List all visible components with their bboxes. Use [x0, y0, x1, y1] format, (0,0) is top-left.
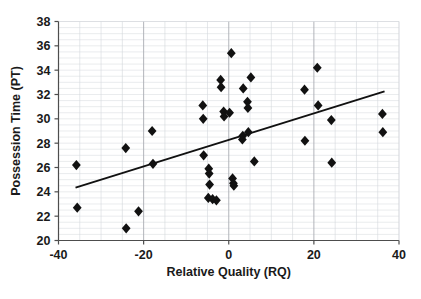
- data-point-marker: [198, 100, 207, 110]
- data-point-marker: [121, 143, 130, 153]
- y-axis-title: Possession Time (PT): [9, 66, 23, 196]
- x-axis-title: Relative Quality (RQ): [167, 265, 291, 279]
- y-tick-label: 20: [37, 234, 51, 248]
- data-point-marker: [250, 156, 259, 166]
- y-tick-label: 32: [37, 88, 51, 102]
- data-point-marker: [122, 223, 131, 233]
- data-point-marker: [327, 115, 336, 125]
- data-point-marker: [378, 127, 387, 137]
- data-point-marker: [199, 114, 208, 124]
- data-point-marker: [199, 150, 208, 160]
- x-axis-ticks: -40-2002040: [49, 241, 406, 262]
- chart-canvas: 20222426283032343638-40-2002040Relative …: [0, 0, 421, 299]
- data-point-marker: [244, 103, 253, 113]
- data-point-marker: [300, 85, 309, 95]
- data-point-marker: [239, 83, 248, 93]
- y-axis-ticks: 20222426283032343638: [37, 15, 59, 248]
- data-point-marker: [227, 48, 236, 58]
- y-tick-label: 22: [37, 210, 51, 224]
- x-tick-label: -40: [49, 248, 67, 262]
- y-tick-label: 26: [37, 161, 51, 175]
- data-point-marker: [217, 82, 226, 92]
- y-tick-label: 28: [37, 137, 51, 151]
- y-tick-label: 24: [37, 185, 51, 199]
- data-point-marker: [148, 126, 157, 136]
- scatter-plot-figure: 20222426283032343638-40-2002040Relative …: [0, 0, 421, 299]
- y-tick-label: 34: [37, 64, 51, 78]
- x-tick-label: 20: [307, 248, 321, 262]
- x-tick-label: 40: [392, 248, 406, 262]
- data-point-marker: [327, 158, 336, 168]
- trendline: [76, 91, 385, 187]
- y-tick-label: 30: [37, 112, 51, 126]
- y-tick-label: 38: [37, 15, 51, 29]
- data-point-marker: [314, 100, 323, 110]
- x-tick-label: 0: [225, 248, 232, 262]
- data-point-marker: [378, 109, 387, 119]
- data-point-marker: [247, 72, 256, 82]
- data-points: [72, 48, 387, 233]
- data-point-marker: [205, 179, 214, 189]
- y-tick-label: 36: [37, 39, 51, 53]
- x-tick-label: -20: [135, 248, 153, 262]
- data-point-marker: [134, 206, 143, 216]
